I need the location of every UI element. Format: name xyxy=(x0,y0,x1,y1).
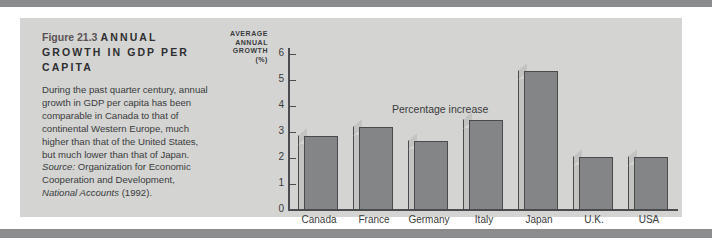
figure-title: Figure 21.3 ANNUAL GROWTH IN GDP PER CAP… xyxy=(42,30,208,75)
figure-source-word: Source: xyxy=(42,161,75,172)
bar xyxy=(298,136,339,210)
bar-front-face xyxy=(579,157,613,210)
y-axis-caption-line-1: AVERAGE xyxy=(208,30,268,39)
bar xyxy=(518,71,559,210)
y-tick xyxy=(290,210,296,211)
bar-front-face xyxy=(414,141,448,210)
y-tick-label: 6 xyxy=(264,47,284,58)
x-axis-label: USA xyxy=(614,214,684,225)
y-axis-caption-line-3: GROWTH xyxy=(208,47,268,56)
bar-front-face xyxy=(524,71,558,210)
y-axis-caption-line-2: ANNUAL xyxy=(208,39,268,48)
y-tick-label: 0 xyxy=(264,203,284,214)
bar-chart: AVERAGE ANNUAL GROWTH (%) Percentage inc… xyxy=(208,24,678,214)
bar-front-face xyxy=(359,127,393,210)
bar xyxy=(353,127,394,210)
figure-source-italic: National Accounts xyxy=(42,187,119,198)
figure-caption-column: Figure 21.3 ANNUAL GROWTH IN GDP PER CAP… xyxy=(42,30,208,200)
y-tick-label: 1 xyxy=(264,177,284,188)
bar xyxy=(408,141,449,210)
plot-area: Percentage increase 0123456CanadaFranceG… xyxy=(270,24,678,214)
bar xyxy=(463,120,504,210)
y-tick-label: 4 xyxy=(264,99,284,110)
bar-front-face xyxy=(634,157,668,210)
chart-annotation: Percentage increase xyxy=(392,103,488,115)
figure-body-main: During the past quarter century, annual … xyxy=(42,84,208,160)
bar-front-face xyxy=(304,136,338,210)
y-tick xyxy=(290,184,296,185)
figure-body-text: During the past quarter century, annual … xyxy=(42,84,208,200)
figure-source-tail: (1992). xyxy=(119,187,152,198)
y-tick xyxy=(290,106,296,107)
bottom-rule xyxy=(0,229,712,238)
bar-front-face xyxy=(469,120,503,210)
y-tick xyxy=(290,54,296,55)
y-axis-caption-line-4: (%) xyxy=(208,56,268,65)
bar xyxy=(628,157,669,210)
y-tick-label: 5 xyxy=(264,73,284,84)
y-tick xyxy=(290,80,296,81)
y-tick xyxy=(290,132,296,133)
top-rule xyxy=(0,0,712,7)
y-axis-caption: AVERAGE ANNUAL GROWTH (%) xyxy=(208,30,268,64)
y-tick-label: 2 xyxy=(264,151,284,162)
y-tick xyxy=(290,158,296,159)
y-tick-label: 3 xyxy=(264,125,284,136)
figure-number: Figure 21.3 xyxy=(42,31,97,43)
bar xyxy=(573,157,614,210)
figure-panel: Figure 21.3 ANNUAL GROWTH IN GDP PER CAP… xyxy=(20,18,682,217)
y-axis-line xyxy=(288,48,290,210)
